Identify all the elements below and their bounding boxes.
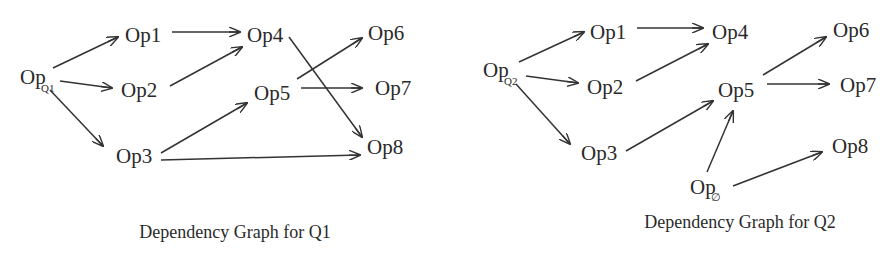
edges-q1: [50, 32, 362, 160]
edge-op5-op6: [297, 38, 362, 79]
dependency-graph-q2: Op Q2 Op1 Op2 Op3 Op4 Op5 Op6 Op7 Op8 Op…: [483, 18, 876, 232]
node-op2: Op2: [587, 75, 623, 99]
node-op5: Op5: [254, 81, 290, 105]
edge-opnull-op8: [733, 152, 822, 186]
edge-opq2-op1: [519, 32, 584, 62]
node-op6: Op6: [368, 21, 404, 45]
edge-op3-op5: [161, 103, 247, 153]
node-op4: Op4: [247, 23, 284, 47]
node-op1: Op1: [125, 23, 161, 47]
node-op2: Op2: [121, 78, 157, 102]
node-op3: Op3: [581, 141, 617, 165]
graph-title-q1: Dependency Graph for Q1: [139, 222, 330, 242]
node-op1: Op1: [590, 20, 626, 44]
node-opq2-subscript: Q2: [504, 75, 517, 87]
node-op5: Op5: [718, 78, 754, 102]
edge-op3-op8: [161, 155, 360, 160]
edge-op2-op4: [170, 47, 242, 86]
edge-op4-op8: [289, 37, 362, 137]
nodes-q2: Op Q2 Op1 Op2 Op3 Op4 Op5 Op6 Op7 Op8 Op…: [483, 18, 876, 203]
node-op4: Op4: [712, 20, 749, 44]
dependency-graph-q1: Op Q1 Op1 Op2 Op3 Op4 Op5 Op6 Op7 Op8 De…: [20, 21, 411, 242]
edge-opnull-op5: [707, 111, 733, 172]
nodes-q1: Op Q1 Op1 Op2 Op3 Op4 Op5 Op6 Op7 Op8: [20, 21, 411, 168]
node-op7: Op7: [375, 76, 411, 100]
edge-op5-op6: [763, 37, 826, 75]
edge-opq2-op3: [516, 84, 570, 144]
node-opnull-subscript: ∅: [711, 191, 721, 203]
edge-opq1-op3: [50, 90, 103, 146]
node-op3: Op3: [116, 144, 152, 168]
dependency-graphs-canvas: Op Q1 Op1 Op2 Op3 Op4 Op5 Op6 Op7 Op8 De…: [0, 0, 894, 258]
edges-q2: [516, 28, 829, 186]
node-op7: Op7: [840, 73, 876, 97]
edge-op3-op5: [626, 101, 713, 151]
edge-opq2-op2: [526, 76, 578, 83]
node-op8: Op8: [832, 134, 868, 158]
node-op8: Op8: [367, 135, 403, 159]
graph-title-q2: Dependency Graph for Q2: [644, 212, 835, 232]
edge-opq1-op2: [60, 81, 112, 88]
edge-opq1-op1: [53, 37, 118, 68]
node-op6: Op6: [833, 18, 869, 42]
edge-op2-op4: [636, 44, 708, 81]
node-opq1-subscript: Q1: [41, 82, 54, 94]
